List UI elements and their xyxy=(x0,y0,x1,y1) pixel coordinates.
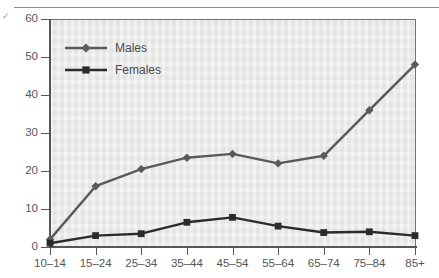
square-marker-icon xyxy=(63,60,109,80)
chart-figure: ✓ 0102030405060 10–1415–2425–3435–4445–5… xyxy=(0,0,439,278)
data-point-marker xyxy=(274,159,282,167)
data-point-marker xyxy=(412,232,419,239)
legend-label: Males xyxy=(115,41,147,55)
data-point-marker xyxy=(229,214,236,221)
data-point-marker xyxy=(228,150,236,158)
data-point-marker xyxy=(320,229,327,236)
legend-item-males: Males xyxy=(63,38,183,60)
data-point-marker xyxy=(47,240,54,247)
diamond-marker-icon xyxy=(63,38,109,58)
legend-label: Females xyxy=(115,63,161,77)
data-point-marker xyxy=(92,232,99,239)
data-point-marker xyxy=(366,228,373,235)
data-point-marker xyxy=(275,223,282,230)
series-line xyxy=(50,217,415,243)
data-point-marker xyxy=(183,154,191,162)
data-point-marker xyxy=(183,219,190,226)
chart-legend: MalesFemales xyxy=(63,38,183,82)
series-females xyxy=(47,214,419,247)
data-point-marker xyxy=(138,230,145,237)
data-point-marker xyxy=(137,165,145,173)
legend-item-females: Females xyxy=(63,60,183,82)
